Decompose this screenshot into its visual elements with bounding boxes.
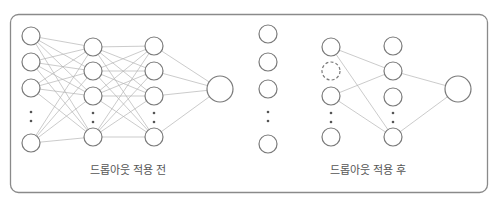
diagram-frame bbox=[11, 15, 488, 193]
neuron-hidden1 bbox=[84, 87, 102, 105]
dropout-diagram: 드롭아웃 적용 전 드롭아웃 적용 후 bbox=[0, 0, 499, 204]
ellipsis-dot-icon bbox=[30, 111, 33, 114]
neuron-hidden1 bbox=[322, 38, 340, 56]
caption-before-dropout: 드롭아웃 적용 전 bbox=[90, 164, 167, 177]
neuron-hidden1 bbox=[322, 87, 340, 105]
edges bbox=[31, 36, 220, 143]
neuron-hidden2 bbox=[145, 128, 163, 146]
neuron-hidden1 bbox=[84, 38, 102, 56]
neuron-hidden1 bbox=[84, 128, 102, 146]
neuron-output bbox=[445, 76, 471, 102]
ellipsis-dot-icon bbox=[392, 112, 395, 115]
connection-edge bbox=[331, 47, 393, 71]
neuron-hidden2 bbox=[384, 128, 402, 146]
neuron-hidden1 bbox=[322, 128, 340, 146]
ellipsis-dot-icon bbox=[267, 120, 270, 123]
neuron-hidden2 bbox=[145, 62, 163, 80]
neuron-input bbox=[259, 53, 277, 71]
caption-after-dropout: 드롭아웃 적용 후 bbox=[330, 164, 407, 177]
ellipsis-dot-icon bbox=[153, 121, 156, 124]
neuron-input bbox=[259, 80, 277, 98]
dropped-neuron-hidden1 bbox=[322, 62, 340, 80]
ellipsis-dot-icon bbox=[330, 121, 333, 124]
neuron-input bbox=[22, 53, 40, 71]
neuron-hidden2 bbox=[145, 87, 163, 105]
ellipsis-dot-icon bbox=[392, 121, 395, 124]
neuron-hidden2 bbox=[384, 62, 402, 80]
neuron-hidden2 bbox=[384, 88, 402, 106]
ellipsis-dot-icon bbox=[330, 112, 333, 115]
ellipsis-dot-icon bbox=[92, 112, 95, 115]
network-after-dropout: 드롭아웃 적용 후 bbox=[259, 25, 471, 177]
network-before-dropout: 드롭아웃 적용 전 bbox=[22, 27, 233, 177]
neuron-input bbox=[22, 79, 40, 97]
neuron-hidden2 bbox=[145, 37, 163, 55]
neuron-output bbox=[207, 76, 233, 102]
neuron-hidden2 bbox=[384, 37, 402, 55]
neuron-input bbox=[259, 135, 277, 153]
ellipsis-dot-icon bbox=[30, 120, 33, 123]
connection-edge bbox=[331, 96, 393, 137]
neuron-input bbox=[259, 25, 277, 43]
ellipsis-dot-icon bbox=[92, 121, 95, 124]
neuron-input bbox=[22, 134, 40, 152]
ellipsis-dot-icon bbox=[153, 112, 156, 115]
neuron-input bbox=[22, 27, 40, 45]
neuron-hidden1 bbox=[84, 62, 102, 80]
nodes bbox=[259, 25, 471, 153]
ellipsis-dot-icon bbox=[267, 111, 270, 114]
